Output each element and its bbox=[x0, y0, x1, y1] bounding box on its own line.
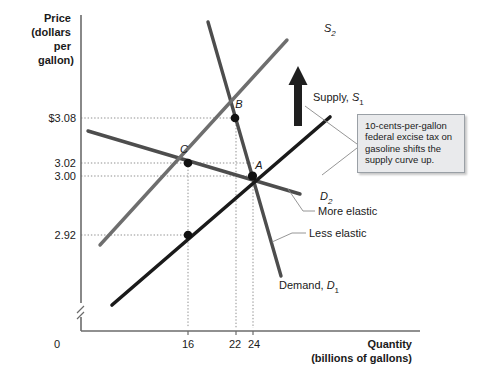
y-tick-label-300: 3.00 bbox=[55, 170, 76, 182]
x-tick-label-22: 22 bbox=[229, 338, 241, 350]
curve-supply-s1 bbox=[112, 117, 330, 305]
point-label-C: C bbox=[180, 143, 188, 155]
y-tick-label-292: 2.92 bbox=[55, 229, 76, 241]
x-axis-subtitle: (billions of gallons) bbox=[311, 352, 412, 364]
curve-label-d2: D2 bbox=[320, 190, 333, 206]
chart-figure: B C A Price (dollars per gallon) $3.08 3… bbox=[0, 0, 479, 372]
annotation-less-elastic: Less elastic bbox=[272, 227, 367, 242]
y-tick-label-308: $3.08 bbox=[48, 112, 76, 124]
curve-label-d1-text: Demand, bbox=[279, 279, 324, 291]
leader-line-less-elastic bbox=[272, 233, 306, 242]
curve-label-s2-sub: 2 bbox=[330, 29, 336, 38]
supply-demand-chart: B C A Price (dollars per gallon) $3.08 3… bbox=[0, 0, 479, 372]
point-B bbox=[231, 114, 240, 123]
curve-label-d1: Demand,D1 bbox=[279, 279, 340, 295]
curve-label-s2: S2 bbox=[324, 22, 336, 38]
grid-lines bbox=[81, 118, 256, 328]
x-tick-label-0: 0 bbox=[54, 338, 60, 350]
axes bbox=[77, 15, 420, 331]
callout-leader-to-arrow bbox=[305, 106, 357, 144]
point-label-A: A bbox=[254, 159, 262, 171]
x-axis-title: Quantity bbox=[367, 338, 412, 350]
y-axis-title-line-4: gallon) bbox=[38, 54, 74, 66]
x-tick-label-16: 16 bbox=[182, 338, 194, 350]
callout-line-2: federal excise tax on bbox=[365, 131, 458, 142]
supply-shift-arrow-icon bbox=[289, 66, 308, 126]
curve-label-d2-base: D bbox=[320, 190, 328, 202]
y-axis-title: Price (dollars per gallon) bbox=[31, 12, 74, 66]
point-s1-at-16 bbox=[184, 231, 193, 240]
y-tick-label-302: 3.02 bbox=[55, 157, 76, 169]
annotation-label-more-elastic: More elastic bbox=[318, 205, 378, 217]
x-tick-label-24: 24 bbox=[248, 338, 260, 350]
point-A bbox=[248, 171, 257, 180]
annotation-label-less-elastic: Less elastic bbox=[309, 227, 367, 239]
curve-label-d1-sub: 1 bbox=[335, 286, 340, 295]
callout-line-4: supply curve up. bbox=[365, 154, 458, 165]
tax-callout-box: 10-cents-per-gallon federal excise tax o… bbox=[357, 114, 465, 173]
point-label-B: B bbox=[235, 98, 242, 110]
curve-label-s1-sub: 1 bbox=[359, 98, 364, 107]
callout-line-3: gasoline shifts the bbox=[365, 143, 458, 154]
y-axis-title-line-2: (dollars bbox=[31, 26, 71, 38]
curve-label-s1-text: Supply, bbox=[313, 91, 349, 103]
curve-label-s1: Supply,S1 bbox=[313, 91, 364, 107]
curve-label-d1-base: D bbox=[327, 279, 335, 291]
y-axis-title-line-1: Price bbox=[44, 12, 71, 24]
callout-line-1: 10-cents-per-gallon bbox=[365, 120, 458, 131]
y-axis-title-line-3: per bbox=[54, 40, 72, 52]
callout-leader-to-supply bbox=[322, 148, 357, 175]
point-C bbox=[184, 159, 193, 168]
